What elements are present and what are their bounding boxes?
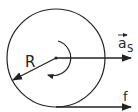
acceleration-label: a S <box>118 35 133 54</box>
rolling-wheel-diagram: R a S f <box>0 0 138 112</box>
force-label: f <box>123 89 128 104</box>
radius-label: R <box>25 53 35 71</box>
svg-text:a: a <box>118 35 127 51</box>
svg-text:S: S <box>127 43 133 54</box>
